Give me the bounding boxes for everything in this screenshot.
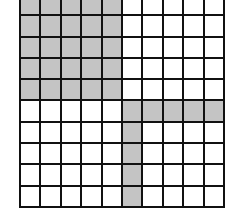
- grid-cell: [143, 38, 161, 57]
- grid-cell-shaded: [103, 16, 121, 35]
- grid-cell: [82, 123, 100, 142]
- grid-cell: [143, 123, 161, 142]
- grid-cell-shaded: [62, 59, 80, 78]
- grid-cell: [164, 187, 182, 206]
- grid-cell: [205, 123, 223, 142]
- grid-cell: [82, 101, 100, 120]
- grid-cell: [103, 144, 121, 163]
- grid-cell: [205, 187, 223, 206]
- grid-cell: [184, 165, 202, 184]
- grid-cell: [41, 187, 59, 206]
- grid-cell: [205, 80, 223, 99]
- grid-cell: [184, 80, 202, 99]
- grid-cell-shaded: [41, 38, 59, 57]
- grid-cell: [164, 16, 182, 35]
- grid-cell-shaded: [103, 59, 121, 78]
- grid-cell: [184, 16, 202, 35]
- grid-cell: [21, 144, 39, 163]
- grid-cell: [21, 165, 39, 184]
- grid-cell: [82, 165, 100, 184]
- grid-cell-shaded: [62, 0, 80, 14]
- grid-cell: [123, 0, 141, 14]
- grid-cell-shaded: [82, 80, 100, 99]
- grid-cell: [164, 80, 182, 99]
- grid-cell: [21, 187, 39, 206]
- grid-cell: [164, 165, 182, 184]
- grid-cell: [21, 101, 39, 120]
- grid-cell: [143, 187, 161, 206]
- grid-cell: [164, 59, 182, 78]
- grid-cell: [164, 123, 182, 142]
- grid-cell-shaded: [62, 38, 80, 57]
- grid-cell: [184, 38, 202, 57]
- grid-cell: [205, 59, 223, 78]
- grid-cell: [143, 16, 161, 35]
- grid-cell-shaded: [123, 187, 141, 206]
- grid-cell: [205, 38, 223, 57]
- grid-cell: [205, 16, 223, 35]
- grid-cell: [184, 144, 202, 163]
- grid-cell: [143, 0, 161, 14]
- grid-cell: [103, 101, 121, 120]
- grid-cell-shaded: [103, 80, 121, 99]
- grid-cell: [82, 187, 100, 206]
- grid-cell: [21, 123, 39, 142]
- grid-cell-shaded: [41, 0, 59, 14]
- grid-cell-shaded: [123, 123, 141, 142]
- grid-cell-shaded: [82, 16, 100, 35]
- grid-cell: [184, 123, 202, 142]
- grid-cell-shaded: [123, 144, 141, 163]
- grid-cell: [82, 144, 100, 163]
- grid-cell-shaded: [62, 80, 80, 99]
- grid-cell-shaded: [21, 0, 39, 14]
- grid-cell-shaded: [21, 38, 39, 57]
- grid-cell: [184, 59, 202, 78]
- grid-cell: [205, 0, 223, 14]
- grid-cell: [62, 123, 80, 142]
- grid-cell-shaded: [82, 38, 100, 57]
- grid-cell: [143, 59, 161, 78]
- grid-cell-shaded: [123, 101, 141, 120]
- grid-cell: [41, 101, 59, 120]
- grid-cell: [164, 144, 182, 163]
- grid-cell-shaded: [41, 59, 59, 78]
- grid-cell: [184, 0, 202, 14]
- grid-cell-shaded: [205, 101, 223, 120]
- grid-cell: [123, 59, 141, 78]
- grid-cell: [205, 165, 223, 184]
- grid-cell-shaded: [21, 80, 39, 99]
- grid-cell-shaded: [21, 59, 39, 78]
- grid-cell: [62, 144, 80, 163]
- grid-cell: [41, 123, 59, 142]
- grid-cell: [41, 165, 59, 184]
- grid-cell: [62, 101, 80, 120]
- hundred-grid: [19, 0, 225, 208]
- grid-cell: [123, 16, 141, 35]
- grid-cell: [103, 187, 121, 206]
- grid-cell: [143, 144, 161, 163]
- grid-cell: [41, 144, 59, 163]
- grid-cell: [62, 165, 80, 184]
- grid-cell: [62, 187, 80, 206]
- grid-cell: [103, 123, 121, 142]
- grid-cell-shaded: [82, 59, 100, 78]
- grid-cell-shaded: [41, 16, 59, 35]
- grid-cell: [143, 80, 161, 99]
- grid-cell-shaded: [21, 16, 39, 35]
- grid-cell-shaded: [41, 80, 59, 99]
- grid-cell-shaded: [123, 165, 141, 184]
- grid-cell: [205, 144, 223, 163]
- grid-cell: [123, 38, 141, 57]
- grid-cell-shaded: [62, 16, 80, 35]
- grid-cell-shaded: [82, 0, 100, 14]
- grid-cell: [103, 165, 121, 184]
- grid-cell: [164, 0, 182, 14]
- grid-cell-shaded: [103, 0, 121, 14]
- grid-cell-shaded: [184, 101, 202, 120]
- grid-cell: [184, 187, 202, 206]
- grid-cell: [123, 80, 141, 99]
- grid-cell-shaded: [103, 38, 121, 57]
- grid-cell-shaded: [143, 101, 161, 120]
- grid-cell-shaded: [164, 101, 182, 120]
- grid-cell: [164, 38, 182, 57]
